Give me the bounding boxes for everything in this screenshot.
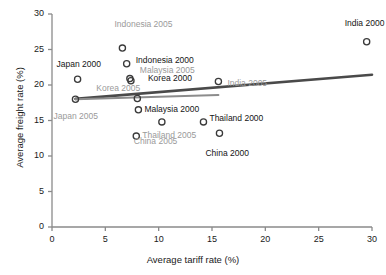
data-point-label: Korea 2005 [96,83,140,93]
data-point-label: Indonesia 2000 [136,55,194,65]
data-point-label: India 2005 [227,78,267,88]
data-point-marker [216,130,222,136]
scatter-chart: 051015202530051015202530 Japan 2005Japan… [0,0,386,275]
data-point-marker [119,45,125,51]
y-tick-label: 10 [22,150,44,160]
y-tick-label: 0 [22,221,44,231]
data-point-label: China 2000 [205,148,248,158]
x-tick-label: 20 [253,234,277,244]
x-tick-label: 30 [360,234,384,244]
x-tick-label: 0 [40,234,64,244]
x-tick-label: 25 [307,234,331,244]
data-point-marker [75,76,81,82]
data-point-marker [364,39,370,45]
data-point-label: India 2000 [345,18,385,28]
data-point-label: Malaysia 2000 [144,104,199,114]
data-point-marker [124,61,130,67]
y-tick-label: 5 [22,186,44,196]
y-tick-label: 30 [22,8,44,18]
data-point-marker [134,95,140,101]
y-tick-label: 25 [22,44,44,54]
data-point-label: Japan 2005 [53,111,97,121]
data-point-marker [200,119,206,125]
data-point-label: Thailand 2000 [209,113,263,123]
x-tick-label: 5 [93,234,117,244]
x-tick-label: 15 [200,234,224,244]
y-tick-label: 20 [22,79,44,89]
data-point-marker [135,107,141,113]
data-point-label: Korea 2000 [148,73,192,83]
y-tick-label: 15 [22,115,44,125]
data-point-marker [215,78,221,84]
data-point-label: China 2005 [134,136,177,146]
x-axis-title: Average tariff rate (%) [0,254,386,265]
y-axis-title: Average freight rate (%) [14,13,25,223]
x-tick-label: 10 [147,234,171,244]
data-point-label: Indonesia 2005 [114,19,172,29]
data-point-label: Japan 2000 [57,59,101,69]
data-point-marker [159,119,165,125]
